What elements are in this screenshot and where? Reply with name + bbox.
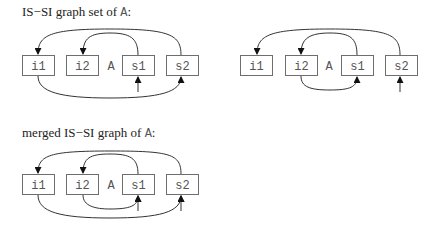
node-s1: s1 — [342, 56, 374, 76]
svg-text:s2: s2 — [175, 60, 189, 74]
edge-s1-to-i2 — [83, 33, 138, 55]
svg-text:s1: s1 — [131, 60, 145, 74]
node-s2: s2 — [167, 175, 199, 195]
edge-i2-to-s1 — [301, 76, 357, 90]
merged-graph: i1 i2 A s1 s2 — [23, 151, 199, 218]
node-i1: i1 — [241, 56, 273, 76]
diagram-canvas: IS−SI graph set of A: merged IS−SI graph… — [0, 0, 435, 228]
svg-text:s1: s1 — [131, 179, 145, 193]
svg-text:i2: i2 — [75, 60, 89, 74]
node-s2: s2 — [386, 56, 418, 76]
svg-text:i1: i1 — [249, 60, 263, 74]
graph-1: i1 i2 A s1 s2 — [23, 29, 199, 98]
node-i1: i1 — [23, 56, 55, 76]
center-label-a: A — [107, 179, 115, 193]
edge-s1-to-i2 — [301, 33, 357, 55]
edge-i2-to-s1 — [83, 195, 138, 209]
graphs-svg: i1 i2 A s1 s2 i1 i2 A s1 s2 i1 — [0, 0, 435, 228]
svg-text:s1: s1 — [350, 60, 364, 74]
center-label-a: A — [325, 60, 333, 74]
svg-text:i2: i2 — [75, 179, 89, 193]
svg-text:i2: i2 — [294, 60, 308, 74]
graph-2: i1 i2 A s1 s2 — [241, 29, 418, 92]
node-i1: i1 — [23, 175, 55, 195]
node-s1: s1 — [123, 56, 155, 76]
svg-text:i1: i1 — [31, 179, 45, 193]
edge-s1-to-i2 — [83, 154, 138, 174]
edge-i1-to-s2 — [38, 195, 181, 218]
svg-text:i1: i1 — [31, 60, 45, 74]
node-i2: i2 — [67, 175, 99, 195]
svg-text:s2: s2 — [394, 60, 408, 74]
node-s1: s1 — [123, 175, 155, 195]
edge-i1-to-s2 — [38, 76, 181, 98]
node-i2: i2 — [67, 56, 99, 76]
svg-text:s2: s2 — [175, 179, 189, 193]
node-i2: i2 — [286, 56, 318, 76]
center-label-a: A — [107, 60, 115, 74]
node-s2: s2 — [167, 56, 199, 76]
